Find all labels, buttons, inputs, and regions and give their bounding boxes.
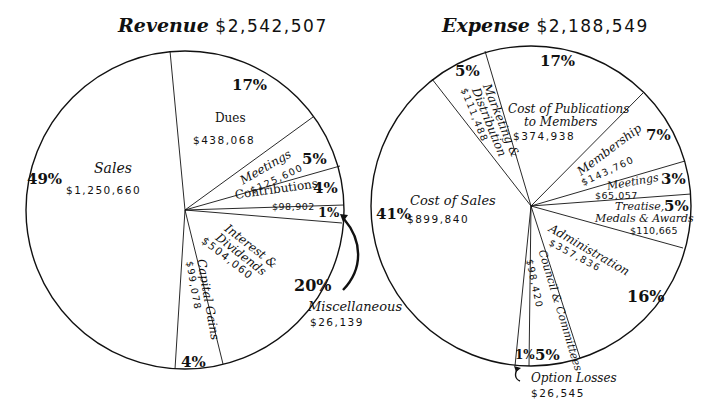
expense-title: Expense $2,188,549 xyxy=(442,14,649,36)
expense-option-label: Option Losses xyxy=(531,372,617,385)
expense-council-pct: 5% xyxy=(535,346,560,364)
revenue-title: Revenue $2,542,507 xyxy=(118,14,328,36)
expense-membership-pct: 7% xyxy=(646,126,671,144)
revenue-interest-pct: 20% xyxy=(294,276,331,295)
revenue-meetings-pct: 5% xyxy=(302,150,327,168)
expense-option-pct: 1% xyxy=(515,348,535,362)
revenue-capital-pct: 4% xyxy=(181,353,206,371)
expense-cos-label: Cost of Sales xyxy=(410,194,496,207)
revenue-misc-pct: 1% xyxy=(318,205,339,220)
revenue-dues-label: Dues xyxy=(215,112,246,125)
revenue-sales-label: Sales xyxy=(94,162,132,175)
divider-sales-dues xyxy=(170,51,185,210)
pie-charts-graphic xyxy=(0,0,705,416)
expense-total: $2,188,549 xyxy=(536,16,648,36)
expense-treatise-amount: $110,665 xyxy=(630,224,678,237)
expense-option-amount: $26,545 xyxy=(531,387,585,400)
revenue-contributions-amount: $98,902 xyxy=(272,200,315,213)
revenue-dues-amount: $438,068 xyxy=(193,134,255,147)
revenue-total: $2,542,507 xyxy=(215,16,327,36)
divider-capital-sales xyxy=(175,210,185,369)
expense-meetings-pct: 3% xyxy=(661,170,686,188)
revenue-misc-amount: $26,139 xyxy=(310,316,364,329)
revenue-misc-label: Miscellaneous xyxy=(308,300,402,313)
expense-publications-amount: $374,938 xyxy=(513,130,575,143)
expense-title-label: Expense xyxy=(442,14,530,36)
revenue-dues-pct: 17% xyxy=(232,76,267,94)
expense-publications-pct: 17% xyxy=(540,52,575,70)
expense-publications-label-2: to Members xyxy=(524,116,597,129)
expense-marketing-pct: 5% xyxy=(455,62,480,80)
revenue-title-label: Revenue xyxy=(118,14,209,36)
revenue-sales-pct: 49% xyxy=(27,170,62,188)
expense-admin-pct: 16% xyxy=(627,287,664,306)
expense-cos-amount: $899,840 xyxy=(407,213,469,226)
option-losses-arrow xyxy=(514,366,521,381)
expense-cos-pct: 41% xyxy=(376,205,411,223)
revenue-sales-amount: $1,250,660 xyxy=(66,184,141,197)
